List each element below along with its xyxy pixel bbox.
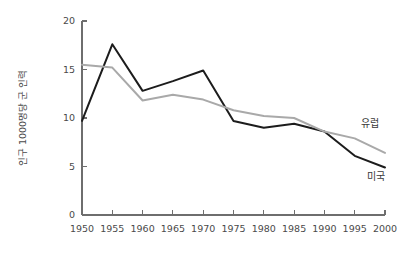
x-tick-label: 1955 xyxy=(100,223,124,234)
series-lines xyxy=(82,44,385,167)
series-label-usa: 미국 xyxy=(367,171,385,182)
x-axis: 1950195519601965197019751980198519901995… xyxy=(70,210,397,234)
y-tick-label: 5 xyxy=(69,161,75,172)
x-tick-label: 1985 xyxy=(282,223,306,234)
series-line-europe xyxy=(82,65,385,153)
series-label-europe: 유럽 xyxy=(361,118,379,129)
line-chart: 05101520 1950195519601965197019751980198… xyxy=(0,0,407,255)
y-tick-label: 10 xyxy=(63,112,75,123)
x-tick-label: 2000 xyxy=(373,223,397,234)
x-tick-label: 1980 xyxy=(252,223,276,234)
x-tick-label: 1995 xyxy=(343,223,367,234)
y-tick-label: 0 xyxy=(69,209,75,220)
series-line-usa xyxy=(82,44,385,167)
x-tick-label: 1950 xyxy=(70,223,94,234)
y-tick-label: 20 xyxy=(63,15,75,26)
x-tick-label: 1990 xyxy=(312,223,336,234)
x-tick-label: 1965 xyxy=(161,223,185,234)
y-axis-title: 인구 1000명당 군 인력 xyxy=(17,70,28,166)
series-labels: 미국유럽 xyxy=(361,118,385,182)
y-tick-label: 15 xyxy=(63,64,75,75)
y-axis-title-text: 인구 1000명당 군 인력 xyxy=(17,70,28,166)
x-tick-label: 1975 xyxy=(221,223,245,234)
chart-container: 05101520 1950195519601965197019751980198… xyxy=(0,0,407,255)
x-tick-label: 1970 xyxy=(191,223,215,234)
x-tick-label: 1960 xyxy=(131,223,155,234)
